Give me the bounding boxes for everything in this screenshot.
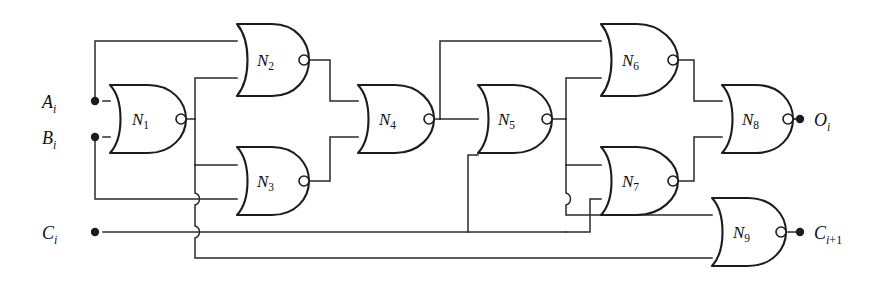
gate-n1[interactable]: N1 <box>110 85 186 153</box>
wire-n2-to-n4 <box>309 60 358 101</box>
wire-ci-to-n5 <box>468 155 478 232</box>
gate-n2[interactable]: N2 <box>237 24 309 96</box>
gate-n3-bubble <box>299 176 309 186</box>
terminal-dot-b <box>91 133 99 141</box>
terminal-dot-cout <box>796 228 804 236</box>
gate-n2-bubble <box>299 55 309 65</box>
gate-n3-label: N3 <box>256 172 274 193</box>
gate-n5-label: N5 <box>497 110 515 131</box>
wire-a-to-n2 <box>95 41 237 101</box>
schematic-canvas: N1 N2 N3 N4 N5 N6 N7 N8 <box>0 0 888 294</box>
gate-n7[interactable]: N7 <box>601 147 678 215</box>
gate-n9-bubble <box>776 227 786 237</box>
wire-b-to-n3 <box>95 137 237 199</box>
wire-n4-to-n6 <box>440 41 601 119</box>
gate-n2-label: N2 <box>256 51 274 72</box>
output-label-cout: Ci+1 <box>814 223 842 247</box>
input-label-a: Ai <box>41 92 56 116</box>
wire-n1-to-n3 <box>195 119 237 165</box>
gate-n6-label: N6 <box>621 51 639 72</box>
gate-n4-bubble <box>424 114 434 124</box>
gate-n1-label: N1 <box>131 110 149 131</box>
gate-n4[interactable]: N4 <box>358 85 434 153</box>
gate-n9-label: N9 <box>732 223 750 244</box>
wire-n1-to-n2 <box>195 78 237 119</box>
wire-n5-to-n7 <box>566 119 601 165</box>
wire-n7-to-n8 <box>678 137 722 181</box>
gate-n8-label: N8 <box>741 110 759 131</box>
gate-n6-bubble <box>668 55 678 65</box>
gate-n5-bubble <box>542 114 552 124</box>
input-label-b: Bi <box>42 128 56 152</box>
gate-n8-bubble <box>783 114 793 124</box>
wire-n6-to-n8 <box>678 60 722 101</box>
gate-n4-label: N4 <box>378 110 396 131</box>
gate-n5[interactable]: N5 <box>478 85 552 153</box>
wire-n3-to-n4 <box>309 137 358 181</box>
gate-n1-bubble <box>176 114 186 124</box>
terminal-dot-a <box>91 97 99 105</box>
wire-n5-to-n6 <box>566 78 601 119</box>
gate-n9[interactable]: N9 <box>712 198 786 266</box>
gate-n7-bubble <box>668 176 678 186</box>
gate-n3[interactable]: N3 <box>237 147 309 215</box>
terminal-dot-c <box>91 228 99 236</box>
wire-n1-to-n9-hops <box>195 165 712 258</box>
terminal-dot-o <box>796 115 804 123</box>
gate-n6[interactable]: N6 <box>601 24 678 96</box>
gate-n8[interactable]: N8 <box>722 85 793 153</box>
gate-n7-body <box>601 147 678 215</box>
output-label-o: Oi <box>814 110 830 134</box>
gate-n6-body <box>601 24 678 96</box>
gate-n7-label: N7 <box>621 172 639 193</box>
wire-layer <box>95 41 798 258</box>
circuit-diagram: N1 N2 N3 N4 N5 N6 N7 N8 <box>0 0 888 294</box>
input-label-c: Ci <box>42 223 57 247</box>
